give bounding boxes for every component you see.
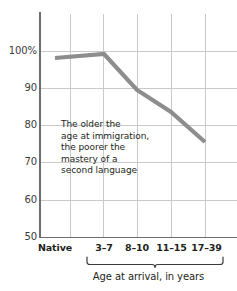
- annotation-line-1: The older the: [61, 119, 169, 131]
- annotation-line-4: mastery of a: [61, 154, 169, 166]
- x-tick-label-native: Native: [36, 242, 74, 253]
- x-tick-label-3-7: 3–7: [87, 242, 121, 253]
- annotation-line-2: age at immigration,: [61, 131, 169, 143]
- annotation-line-3: the poorer the: [61, 142, 169, 154]
- annotation-line-5: second language: [61, 165, 169, 177]
- chart-figure: 100% 90 80 70 60 50 The older the age at…: [0, 0, 237, 291]
- x-tick-label-8-10: 8–10: [120, 242, 154, 253]
- category-group-bracket: [86, 256, 224, 268]
- x-tick-label-17-39: 17–39: [188, 242, 225, 253]
- x-tick-label-11-15: 11–15: [153, 242, 190, 253]
- chart-annotation: The older the age at immigration, the po…: [61, 119, 169, 177]
- x-axis-title: Age at arrival, in years: [60, 271, 237, 283]
